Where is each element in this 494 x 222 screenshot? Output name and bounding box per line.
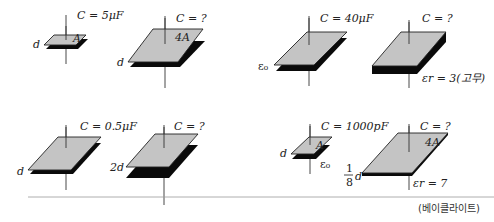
capacitance-label: C = 1000pF	[321, 120, 389, 133]
panel-dielectric-unknown: εr = 3(고무) C = ?	[372, 12, 485, 88]
panel-area-unknown: 4A d C = ?	[117, 12, 207, 88]
gap-label: d	[280, 147, 287, 160]
gap-label: d	[33, 38, 40, 51]
gap-fraction-denominator: 8	[346, 176, 353, 189]
gap-variable: d	[355, 170, 362, 183]
material-label: (베이클라이트)	[418, 203, 480, 214]
gap-label: d	[17, 165, 24, 178]
capacitance-label: C = ?	[420, 120, 451, 133]
medium-label: ε₀	[320, 158, 331, 171]
area-label: 4A	[174, 31, 190, 44]
area-label: 4A	[424, 136, 440, 149]
capacitance-label: C = ?	[422, 12, 453, 25]
capacitance-label: C = ?	[176, 12, 207, 25]
gap-label: d	[117, 56, 124, 69]
capacitance-label: C = ?	[174, 120, 205, 133]
gap-label: 2d	[109, 161, 124, 174]
capacitance-label: C = 5μF	[77, 9, 124, 22]
medium-label: ε₀	[258, 60, 269, 73]
panel-area-given: A d C = 5μF	[33, 9, 124, 64]
capacitor-comparison-diagram: A d C = 5μF 4A d C = ? ε₀ C = 40μF εr = …	[0, 0, 494, 222]
capacitance-label: C = 0.5μF	[80, 120, 137, 133]
panel-dielectric-given: ε₀ C = 40μF	[258, 12, 374, 86]
medium-label: εr = 3(고무)	[422, 72, 485, 85]
capacitance-label: C = 40μF	[320, 12, 374, 25]
medium-label: εr = 7	[413, 177, 447, 190]
area-label: A	[315, 139, 324, 152]
panel-distance-given: d C = 0.5μF	[17, 120, 137, 190]
area-label: A	[72, 32, 81, 45]
gap-fraction-numerator: 1	[346, 162, 353, 175]
